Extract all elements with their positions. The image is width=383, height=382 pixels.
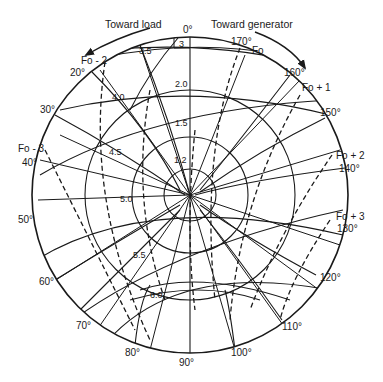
ratio-5-0: 5.0 (120, 194, 133, 204)
curve-140 (195, 168, 345, 195)
toward-generator-label: Toward generator (211, 19, 293, 29)
angle-130: 130° (337, 224, 358, 234)
freq-fo-plus-2: Fo + 2 (336, 151, 365, 161)
angle-50: 50° (18, 215, 33, 225)
dash-fo-plus-2 (250, 155, 332, 310)
angle-100: 100° (231, 348, 252, 358)
freq-fo-plus-3: Fo + 3 (336, 212, 365, 222)
angle-90: 90° (179, 358, 194, 368)
toward-load-label: Toward load (105, 19, 162, 29)
ratio-4-0: 4.0 (112, 92, 125, 102)
angle-30: 30° (40, 105, 55, 115)
ratio-3: 3 (179, 39, 184, 49)
freq-fo: Fo (252, 46, 264, 56)
curve-3 (130, 38, 178, 110)
angle-160: 160° (284, 68, 305, 78)
dash-fo (211, 48, 240, 300)
ratio-5-5: 5.5 (133, 250, 146, 260)
curve-20 (92, 72, 180, 190)
angle-0: 0° (183, 25, 193, 35)
angle-60: 60° (39, 277, 54, 287)
ratio-1-5: 1.5 (175, 118, 188, 128)
ratio-3-5: 3.5 (139, 46, 152, 56)
freq-fo-plus-1: Fo + 1 (302, 83, 331, 93)
angle-170: 170° (231, 37, 252, 47)
ratio-6-0: 6.0 (150, 290, 163, 300)
polar-impedance-diagram (0, 0, 383, 382)
ratio-4-5: 4.5 (109, 147, 122, 157)
angle-120: 120° (320, 273, 341, 283)
angle-140: 140° (339, 164, 360, 174)
ratio-1-2: 1.2 (174, 155, 187, 165)
dash-center (190, 130, 195, 310)
ratio-2-0: 2.0 (175, 79, 188, 89)
curve-70 (80, 210, 180, 310)
angle-110: 110° (282, 322, 302, 332)
angle-20: 20° (70, 68, 85, 78)
dash-fo-plus-1 (230, 95, 300, 320)
angle-70: 70° (76, 321, 91, 331)
angle-150: 150° (320, 108, 341, 118)
arc-6-0 (100, 283, 330, 351)
freq-fo-minus-3: Fo - 3 (18, 144, 44, 154)
freq-fo-minus-2: Fo - 2 (81, 56, 107, 66)
curve-150 (200, 118, 325, 192)
angle-40: 40° (22, 158, 37, 168)
angle-80: 80° (125, 348, 140, 358)
